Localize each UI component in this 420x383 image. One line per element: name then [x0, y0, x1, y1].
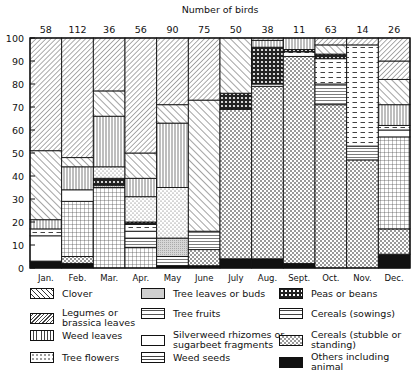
segment	[30, 229, 62, 236]
y-tick-label: 50	[12, 148, 24, 159]
legend-swatch-black	[279, 357, 303, 368]
x-tick-label: Nov.	[353, 273, 372, 283]
segment	[378, 125, 410, 130]
legend-item: Weed leaves	[30, 330, 122, 341]
segment	[315, 105, 347, 268]
segment	[62, 263, 94, 268]
segment	[315, 45, 347, 54]
segment	[62, 190, 94, 202]
legend-swatch-stipple-grey	[141, 288, 165, 299]
segment	[283, 52, 315, 57]
chart-figure: Number of birds 581123656907550381163142…	[0, 0, 420, 383]
bird-count: 38	[261, 24, 273, 35]
legend: CloverLegumes or brassica leavesWeed lea…	[0, 286, 420, 383]
segment	[62, 38, 94, 158]
segment	[283, 263, 315, 268]
bird-count: 50	[230, 24, 242, 35]
legend-label: Others including animal	[311, 352, 420, 372]
x-tick-label: Sept.	[288, 273, 310, 283]
segment	[30, 220, 62, 229]
legend-swatch-white	[141, 335, 165, 346]
segment	[220, 109, 252, 258]
bars	[30, 38, 410, 268]
segment	[125, 247, 157, 268]
legend-swatch-checker	[279, 335, 303, 346]
segment	[188, 250, 220, 266]
bird-count: 63	[325, 24, 337, 35]
legend-item: Clover	[30, 288, 92, 299]
bar-nov	[347, 38, 379, 268]
segment	[125, 38, 157, 153]
y-tick-label: 10	[12, 240, 24, 251]
y-tick-label: 0	[18, 263, 24, 274]
legend-item: Silverweed rhizomes or sugarbeet fragmen…	[141, 330, 284, 350]
segment	[93, 188, 125, 269]
segment	[125, 224, 157, 231]
legend-label: Tree fruits	[173, 309, 220, 319]
segment	[252, 40, 284, 47]
segment	[283, 38, 315, 50]
segment	[378, 130, 410, 137]
bar-feb	[62, 38, 94, 268]
segment	[347, 146, 379, 160]
legend-label: Tree leaves or buds	[173, 289, 265, 299]
segment	[252, 259, 284, 268]
segment	[125, 238, 157, 247]
segment	[220, 93, 252, 109]
segment	[220, 259, 252, 268]
segment	[93, 38, 125, 91]
segment	[157, 123, 189, 187]
bar-dec	[378, 38, 410, 268]
legend-label: Silverweed rhizomes or sugarbeet fragmen…	[173, 330, 284, 350]
segment	[125, 231, 157, 238]
bird-count: 36	[103, 24, 115, 35]
segment	[252, 47, 284, 84]
segment	[30, 38, 62, 151]
bar-may	[157, 38, 189, 268]
legend-item: Tree leaves or buds	[141, 288, 265, 299]
legend-item: Others including animal	[279, 352, 420, 372]
segment	[220, 38, 252, 93]
segment	[315, 84, 347, 105]
legend-label: Cereals (sowings)	[311, 309, 395, 319]
bird-counts: 5811236569075503811631426	[40, 24, 400, 35]
segment	[378, 137, 410, 229]
legend-swatch-slash	[30, 313, 54, 324]
bar-apr	[125, 38, 157, 268]
legend-swatch-dots-dark	[279, 288, 303, 299]
segment	[30, 151, 62, 220]
segment	[378, 229, 410, 254]
segment	[283, 56, 315, 263]
legend-label: Clover	[62, 289, 92, 299]
legend-swatch-dashes	[141, 308, 165, 319]
x-tick-label: June	[194, 273, 214, 283]
bird-count: 90	[166, 24, 178, 35]
legend-swatch-grid	[279, 308, 303, 319]
legend-item: Legumes or brassica leaves	[30, 308, 135, 328]
segment	[188, 231, 220, 249]
segment	[315, 59, 347, 84]
legend-swatch-backslash	[30, 288, 54, 299]
top-axis-label: Number of birds	[182, 4, 259, 15]
bar-aug	[252, 38, 284, 268]
segment	[157, 238, 189, 256]
x-tick-label: Dec.	[385, 273, 404, 283]
segment	[378, 61, 410, 79]
legend-item: Weed seeds	[141, 352, 230, 363]
bird-count: 14	[356, 24, 368, 35]
legend-label: Tree flowers	[62, 353, 119, 363]
y-tick-label: 40	[12, 171, 24, 182]
segment	[315, 54, 347, 59]
legend-swatch-hlines	[141, 352, 165, 363]
legend-label: Cereals (stubble or standing)	[311, 330, 401, 350]
segment	[157, 188, 189, 239]
segment	[62, 158, 94, 167]
y-tick-label: 60	[12, 125, 24, 136]
legend-label: Peas or beans	[311, 289, 377, 299]
legend-item: Tree fruits	[141, 308, 220, 319]
segment	[315, 38, 347, 45]
x-tick-label: May	[164, 273, 182, 283]
segment	[157, 257, 189, 266]
segment	[93, 91, 125, 116]
x-tick-label: Feb.	[69, 273, 87, 283]
